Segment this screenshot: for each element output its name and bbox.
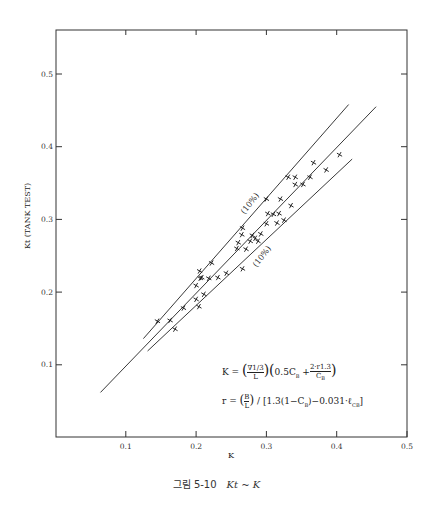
- data-point-marker: [215, 275, 220, 280]
- formula-r-rest: / [1.3(1−C: [257, 396, 304, 406]
- data-point-marker: [293, 175, 298, 180]
- data-point-marker: [265, 211, 270, 216]
- y-tick-label: 0.2: [41, 288, 53, 297]
- data-point-marker: [311, 160, 316, 165]
- formula-r-lhs: r =: [222, 396, 237, 406]
- data-point-marker: [324, 167, 329, 172]
- band-label-upper: (10%): [239, 191, 261, 215]
- fit-line: [148, 159, 353, 351]
- x-axis-ticks: 0.10.20.30.40.5: [120, 30, 413, 451]
- x-tick-label: 0.1: [120, 442, 132, 451]
- formula-k-sub: B: [296, 373, 300, 379]
- data-point-marker: [337, 152, 342, 157]
- y-axis-title: Kt (TANK TEST): [23, 183, 32, 249]
- data-point-marker: [274, 220, 279, 225]
- fit-line: [143, 105, 348, 339]
- formula-r: r = (BL) / [1.3(1−CB)−0.031·ℓCB]: [222, 393, 363, 410]
- y-tick-label: 0.1: [41, 360, 53, 369]
- data-point-marker: [276, 211, 281, 216]
- formula-r-sub2: CB: [352, 402, 360, 408]
- formula-k-frac1-num: ∇1/3: [247, 364, 263, 373]
- x-tick-label: 0.4: [331, 442, 343, 451]
- regression-lines: [100, 105, 376, 393]
- formula-r-rest2: )−0.031·ℓ: [308, 396, 352, 406]
- data-points: [155, 152, 342, 332]
- y-tick-label: 0.4: [41, 142, 53, 151]
- scatter-chart: 0.10.20.30.40.5 0.10.20.30.40.5 K Kt (TA…: [0, 0, 433, 510]
- formula-k-frac2-num: 2·r1.3: [310, 363, 331, 372]
- data-point-marker: [194, 283, 199, 288]
- x-tick-label: 0.3: [260, 442, 272, 451]
- formula-r-close: ]: [360, 396, 364, 406]
- formula-k: K = (∇1/3L)(0.5CB +2·r1.3CB): [222, 362, 337, 382]
- x-tick-label: 0.5: [401, 442, 413, 451]
- data-point-marker: [281, 218, 286, 223]
- data-point-marker: [243, 247, 248, 252]
- formula-k-frac1-den: L: [247, 373, 263, 381]
- x-tick-label: 0.2: [190, 442, 202, 451]
- formula-k-frac2-sub: B: [321, 375, 325, 381]
- formula-k-lhs: K =: [222, 367, 239, 377]
- figure-caption: 그림 5-10Kt ~ K: [0, 476, 433, 491]
- data-point-marker: [240, 266, 245, 271]
- band-label-lower: (10%): [251, 244, 273, 268]
- data-point-marker: [236, 240, 241, 245]
- formula-k-term: 0.5C: [275, 367, 296, 377]
- data-point-marker: [278, 196, 283, 201]
- y-axis-ticks: 0.10.20.30.40.5: [41, 70, 407, 370]
- data-point-marker: [234, 246, 239, 251]
- y-tick-label: 0.3: [41, 215, 53, 224]
- x-axis-title: K: [228, 451, 235, 460]
- formula-k-plus: +: [302, 367, 310, 377]
- data-point-marker: [293, 182, 298, 187]
- data-point-marker: [288, 203, 293, 208]
- data-point-marker: [258, 231, 263, 236]
- caption-prefix: 그림 5-10: [173, 479, 217, 490]
- data-point-marker: [239, 232, 244, 237]
- y-tick-label: 0.5: [41, 70, 53, 79]
- data-point-marker: [194, 297, 199, 302]
- caption-math: Kt ~ K: [227, 479, 261, 490]
